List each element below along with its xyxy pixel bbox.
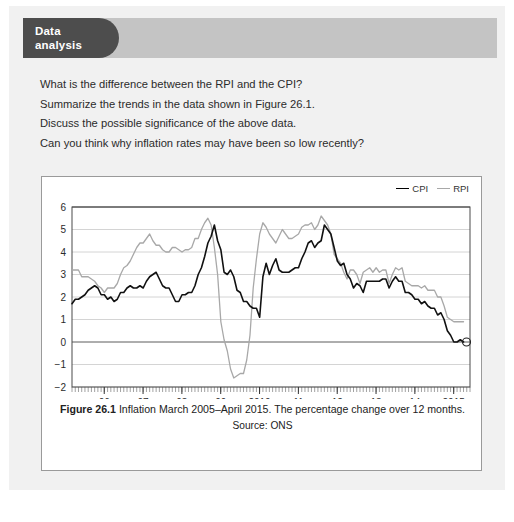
- x-axis-tick-label: 13: [370, 397, 382, 399]
- figure-caption-text: Inflation March 2005–April 2015. The per…: [119, 403, 465, 415]
- data-analysis-card: Data analysis What is the difference bet…: [9, 6, 505, 490]
- legend-item-rpi: RPI: [437, 183, 469, 194]
- x-axis-tick-label: 06: [99, 397, 111, 399]
- y-axis-tick-label: 2: [60, 292, 66, 303]
- y-axis-tick-label: 1: [60, 314, 66, 325]
- y-axis-tick-label: −2: [55, 382, 67, 393]
- chart-legend: CPI RPI: [396, 183, 469, 194]
- legend-swatch-cpi: [396, 188, 409, 189]
- question-item: What is the difference between the RPI a…: [40, 78, 480, 91]
- x-axis-tick-label: 14: [409, 397, 421, 399]
- x-axis-tick-label: 12: [332, 397, 344, 399]
- y-axis-tick-label: 4: [60, 247, 66, 258]
- x-axis-tick-label: 09: [215, 397, 227, 399]
- y-axis-tick-label: 3: [60, 269, 66, 280]
- legend-swatch-rpi: [437, 188, 450, 189]
- legend-label-rpi: RPI: [453, 183, 469, 194]
- section-badge: Data analysis: [23, 18, 119, 58]
- x-axis-tick-label: 07: [137, 397, 149, 399]
- figure-source: Source: ONS: [42, 419, 483, 434]
- question-item: Discuss the possible significance of the…: [40, 117, 480, 130]
- badge-line-2: analysis: [35, 38, 119, 52]
- figure-caption: Figure 26.1 Inflation March 2005–April 2…: [42, 402, 483, 433]
- page-root: Data analysis What is the difference bet…: [0, 0, 514, 522]
- y-axis-tick-label: 6: [60, 202, 66, 213]
- figure-label: Figure 26.1: [60, 403, 116, 415]
- question-item: Can you think why inflation rates may ha…: [40, 137, 480, 150]
- x-axis-tick-label: 2015: [443, 397, 466, 399]
- series-line-cpi: [72, 225, 464, 342]
- badge-line-1: Data: [35, 24, 119, 38]
- x-axis-tick-label: 11: [293, 397, 304, 399]
- x-axis-tick-label: 2010: [248, 397, 271, 399]
- figure-container: CPI RPI 6543210−1−2060708092010111213142…: [41, 176, 482, 471]
- y-axis-tick-label: 0: [60, 337, 66, 348]
- chart-svg: 6543210−1−2060708092010111213142015: [42, 177, 481, 399]
- x-axis-tick-label: 08: [176, 397, 188, 399]
- y-axis-tick-label: 5: [60, 224, 66, 235]
- legend-label-cpi: CPI: [412, 183, 428, 194]
- inflation-chart: CPI RPI 6543210−1−2060708092010111213142…: [42, 177, 481, 399]
- question-item: Summarize the trends in the data shown i…: [40, 98, 480, 111]
- questions-list: What is the difference between the RPI a…: [40, 78, 480, 156]
- legend-item-cpi: CPI: [396, 183, 428, 194]
- y-axis-tick-label: −1: [55, 359, 67, 370]
